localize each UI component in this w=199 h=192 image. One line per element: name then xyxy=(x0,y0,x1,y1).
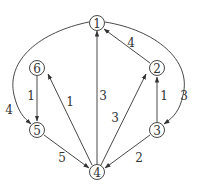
edge-label-5-4: 5 xyxy=(58,151,66,165)
edge-label-3-4: 2 xyxy=(135,151,143,165)
svg-text:4: 4 xyxy=(93,166,101,180)
edge-1-5 xyxy=(13,22,89,124)
node-5: 5 xyxy=(30,123,45,138)
edge-1-3 xyxy=(105,22,184,124)
edge-label-1-5: 4 xyxy=(5,103,13,117)
edge-4-6 xyxy=(48,74,92,165)
edge-label-3-2: 1 xyxy=(160,89,168,103)
svg-text:2: 2 xyxy=(153,62,161,76)
edge-label-4-1: 3 xyxy=(99,89,107,103)
svg-text:1: 1 xyxy=(93,17,101,31)
svg-text:5: 5 xyxy=(33,124,41,138)
svg-text:6: 6 xyxy=(33,62,41,76)
edge-label-4-6: 1 xyxy=(66,95,74,109)
edge-3-4 xyxy=(105,135,150,168)
edge-5-4 xyxy=(44,135,89,168)
node-4: 4 xyxy=(90,165,105,180)
node-6: 6 xyxy=(30,61,45,76)
edge-label-4-2: 3 xyxy=(111,111,119,125)
graph-diagram: 4 3 4 3 3 1 1 1 5 2 1 2 3 4 5 6 xyxy=(0,0,199,192)
edge-label-6-5: 1 xyxy=(27,89,35,103)
node-3: 3 xyxy=(150,123,165,138)
svg-text:3: 3 xyxy=(153,124,161,138)
edge-label-2-1: 4 xyxy=(127,36,135,50)
node-1: 1 xyxy=(90,16,105,31)
edge-label-1-3: 3 xyxy=(180,89,188,103)
node-2: 2 xyxy=(150,61,165,76)
